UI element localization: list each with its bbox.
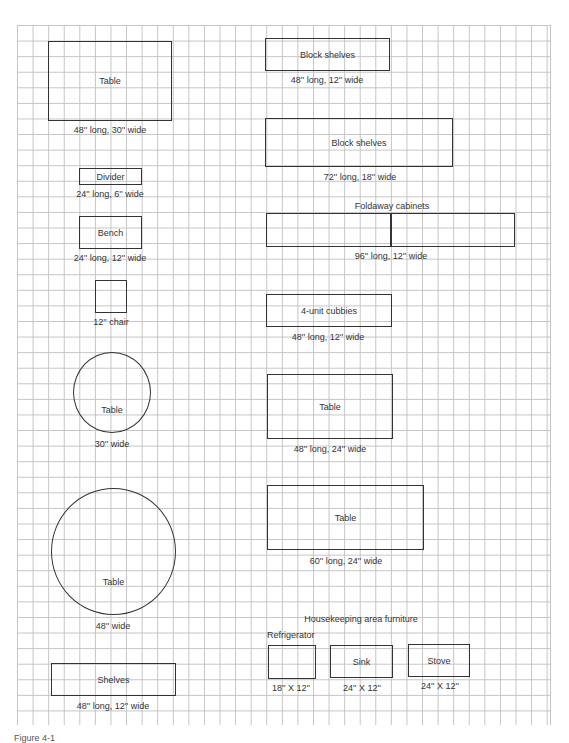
dimension-label: 60'' long, 24'' wide xyxy=(310,556,382,566)
dimension-label: 12'' chair xyxy=(93,317,128,327)
dimension-label: 48'' long, 30'' wide xyxy=(74,125,146,135)
shape-label: Block shelves xyxy=(331,138,386,148)
figure-caption: Figure 4-1 xyxy=(14,733,55,743)
dimension-label: 48'' long, 12'' wide xyxy=(291,75,363,85)
block-shelves-72: Block shelves xyxy=(265,118,453,167)
foldaway-cabinet-right xyxy=(390,213,515,247)
divider-rect: Divider xyxy=(79,168,142,185)
bench-rect: Bench xyxy=(79,216,142,249)
chair-square xyxy=(95,280,127,313)
foldaway-cabinets-title: Foldaway cabinets xyxy=(355,201,430,211)
stove-rect: Stove xyxy=(408,644,470,677)
dimension-label: 96'' long, 12'' wide xyxy=(355,251,427,261)
shape-label: 4-unit cubbies xyxy=(301,306,357,316)
round-table-30: Table xyxy=(73,352,151,433)
shape-label: Table xyxy=(103,577,125,587)
block-shelves-48: Block shelves xyxy=(265,38,390,71)
shape-label: Sink xyxy=(353,657,371,667)
dimension-label: 24'' long, 12'' wide xyxy=(74,253,146,263)
dimension-label: 30'' wide xyxy=(95,439,129,449)
shape-label: Stove xyxy=(427,656,450,666)
dimension-label: 48'' long, 12'' wide xyxy=(77,701,149,711)
foldaway-cabinet-left xyxy=(266,213,392,247)
shelves-rect: Shelves xyxy=(51,663,176,696)
table-rect-60x24: Table xyxy=(267,485,424,550)
dimension-label: 24'' X 12'' xyxy=(343,683,381,693)
housekeeping-title: Housekeeping area furniture xyxy=(304,614,418,624)
shape-label: Table xyxy=(319,402,341,412)
shape-label: Shelves xyxy=(97,675,129,685)
table-rect-48x24: Table xyxy=(267,374,393,439)
shape-label: Table xyxy=(335,513,357,523)
round-table-48: Table xyxy=(51,488,176,615)
dimension-label: 24'' X 12'' xyxy=(421,681,459,691)
sink-rect: Sink xyxy=(330,645,393,678)
dimension-label: 18'' X 12'' xyxy=(272,683,310,693)
cubbies-rect: 4-unit cubbies xyxy=(266,294,392,327)
shape-label: Table xyxy=(99,76,121,86)
shape-label: Bench xyxy=(98,228,124,238)
dimension-label: 48'' long, 12'' wide xyxy=(292,332,364,342)
shape-label: Table xyxy=(101,405,123,415)
dimension-label: 72'' long, 18'' wide xyxy=(324,172,396,182)
dimension-label: 24'' long, 6'' wide xyxy=(76,189,143,199)
shape-label: Block shelves xyxy=(300,50,355,60)
shape-label: Divider xyxy=(96,172,124,182)
refrigerator-label: Refrigerator xyxy=(267,630,315,640)
dimension-label: 48'' long, 24'' wide xyxy=(294,444,366,454)
dimension-label: 48'' wide xyxy=(96,621,130,631)
table-rect-48x30: Table xyxy=(48,41,172,121)
refrigerator-rect xyxy=(268,645,316,679)
